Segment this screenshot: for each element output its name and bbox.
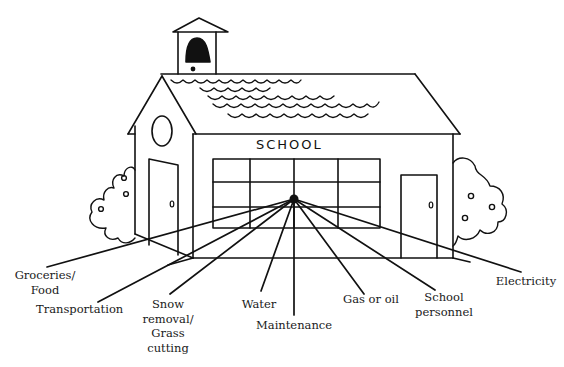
line-electricity: [294, 199, 521, 272]
right-bush: [453, 158, 506, 246]
building-sign: SCHOOL: [256, 137, 323, 152]
label-school-personnel: School personnel: [410, 290, 478, 319]
bell-tower: [173, 18, 228, 74]
label-maintenance: Maintenance: [256, 318, 330, 333]
label-gas-or-oil: Gas or oil: [338, 292, 404, 307]
round-window: [152, 116, 172, 146]
label-transportation: Transportation: [36, 302, 118, 317]
right-door: [401, 175, 437, 258]
hub-dot: [290, 195, 299, 204]
line-groceries: [47, 199, 294, 267]
roof: [161, 74, 460, 134]
roof-shingles: [171, 80, 379, 118]
line-transportation: [98, 199, 294, 302]
line-personnel: [294, 199, 435, 290]
label-water: Water: [238, 297, 280, 312]
door-knob: [429, 202, 433, 208]
line-snow: [170, 199, 294, 294]
line-gas: [294, 199, 364, 294]
door-knob: [170, 201, 174, 207]
window-grid: [213, 159, 380, 228]
label-groceries: Groceries/ Food: [14, 268, 76, 297]
bell-icon: [186, 38, 210, 62]
left-bush: [90, 167, 135, 243]
left-door: [149, 159, 178, 255]
left-wing: [128, 76, 193, 258]
label-snow-removal: Snow removal/ Grass cutting: [138, 297, 198, 355]
label-electricity: Electricity: [494, 274, 558, 289]
